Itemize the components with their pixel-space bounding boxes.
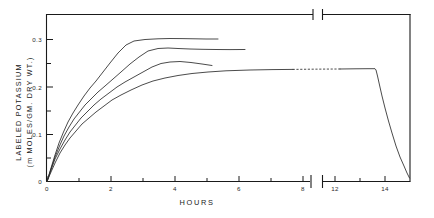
x-tick-label-14: 14: [381, 185, 389, 192]
y-axis-title-group: LABELED POTASSIUM (m MOLES/GM. DRY WT.): [14, 56, 34, 167]
data-curves: [47, 39, 410, 182]
figure-container: 0.3 0.2 0.1 0 0 2 4 6 8 12 14 HOURS LABE…: [0, 0, 434, 218]
plot-frame: [46, 14, 411, 182]
x-tick-label-8: 8: [301, 185, 305, 192]
x-tick-label-0: 0: [45, 185, 49, 192]
x-axis-title: HOURS: [179, 198, 214, 207]
x-tick-label-4: 4: [173, 185, 177, 192]
chart-plot: 0.3 0.2 0.1 0 0 2 4 6 8 12 14 HOURS LABE…: [0, 0, 434, 218]
curve-2-path: [47, 48, 245, 182]
x-axis-ticks: [47, 176, 385, 182]
curve-4-path-left: [47, 69, 293, 181]
x-tick-labels: 0 2 4 6 8 12 14: [45, 185, 389, 192]
y-tick-label-0.3: 0.3: [32, 36, 42, 43]
x-tick-label-2: 2: [109, 185, 113, 192]
curve-4-path-right: [340, 69, 410, 178]
y-axis-title-line1: LABELED POTASSIUM: [14, 63, 23, 160]
curve-1-path: [47, 39, 218, 182]
curve-3-path: [47, 62, 212, 182]
x-tick-label-6: 6: [237, 185, 241, 192]
x-tick-label-12: 12: [331, 185, 339, 192]
y-axis-ticks: [47, 40, 54, 159]
y-tick-label-0: 0: [38, 178, 42, 185]
y-axis-title-line2: (m MOLES/GM. DRY WT.): [25, 56, 34, 167]
axis-break-marks: [311, 9, 323, 188]
